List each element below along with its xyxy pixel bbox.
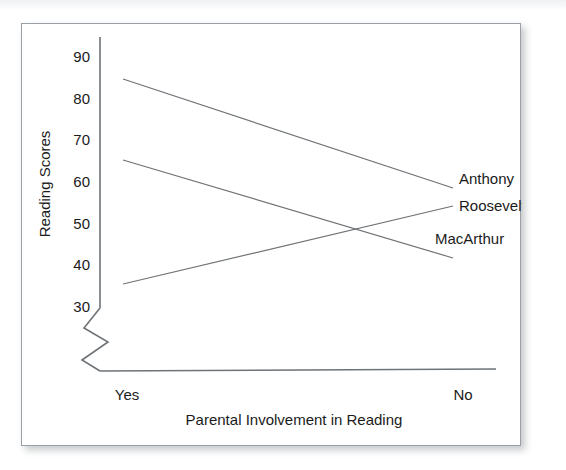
x-tick-label-yes: Yes <box>115 386 139 403</box>
y-tick-label: 30 <box>73 298 90 315</box>
page-top-band <box>0 0 566 10</box>
series-line-roosevelt <box>123 206 453 284</box>
x-axis-line <box>100 369 496 371</box>
axis-break-zigzag <box>82 308 108 371</box>
y-axis-title: Reading Scores <box>36 131 53 238</box>
x-axis-title: Parental Involvement in Reading <box>186 411 403 428</box>
y-tick-label: 80 <box>73 90 90 107</box>
series-line-macarthur <box>123 160 453 258</box>
y-tick-label: 60 <box>73 173 90 190</box>
y-tick-label: 70 <box>73 131 90 148</box>
series-label-anthony: Anthony <box>459 170 515 187</box>
figure-card: 90 80 70 60 50 40 30 Reading Scores Anth… <box>21 23 521 446</box>
series-label-roosevelt: Roosevelt <box>459 197 522 214</box>
y-tick-label: 90 <box>73 48 90 65</box>
series-line-anthony <box>123 79 453 188</box>
line-chart: 90 80 70 60 50 40 30 Reading Scores Anth… <box>22 24 522 447</box>
series-label-macarthur: MacArthur <box>435 230 504 247</box>
x-tick-label-no: No <box>453 386 472 403</box>
y-tick-label: 50 <box>73 215 90 232</box>
y-tick-label: 40 <box>73 256 90 273</box>
